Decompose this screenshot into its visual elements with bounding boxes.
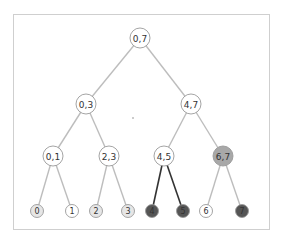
tree-node: 0,3 — [76, 94, 96, 114]
tree-node: 0,7 — [130, 28, 150, 48]
tree-edge — [86, 38, 140, 104]
tree-node: 2,3 — [99, 146, 119, 166]
node-label: 4 — [149, 207, 154, 216]
node-label: 0 — [34, 207, 39, 216]
node-label: 1 — [69, 207, 74, 216]
node-label: 4,7 — [184, 100, 198, 110]
node-label: 2,3 — [102, 152, 116, 162]
tree-node: 4,7 — [181, 94, 201, 114]
node-label: 0,3 — [79, 100, 93, 110]
leaf-node: 4 — [146, 205, 159, 218]
tree-nodes: 0,70,34,70,12,34,56,701234567 — [31, 28, 249, 218]
tree-node: 0,1 — [43, 146, 63, 166]
node-label: 3 — [125, 207, 130, 216]
node-label: 6 — [203, 207, 208, 216]
node-label: 7 — [239, 207, 244, 216]
node-label: 0,1 — [46, 152, 60, 162]
tree-edges — [37, 38, 242, 211]
node-label: 0,7 — [133, 34, 147, 44]
node-label: 2 — [93, 207, 98, 216]
leaf-node: 6 — [200, 205, 213, 218]
center-dot — [132, 117, 134, 119]
node-label: 4,5 — [157, 152, 171, 162]
leaf-node: 1 — [66, 205, 79, 218]
node-label: 5 — [180, 207, 185, 216]
leaf-node: 7 — [236, 205, 249, 218]
tree-node: 6,7 — [213, 146, 233, 166]
tree-node: 4,5 — [154, 146, 174, 166]
segment-tree-diagram: 0,70,34,70,12,34,56,701234567 — [0, 0, 282, 242]
leaf-node: 0 — [31, 205, 44, 218]
node-label: 6,7 — [216, 152, 230, 162]
leaf-node: 3 — [122, 205, 135, 218]
leaf-node: 2 — [90, 205, 103, 218]
tree-edge — [140, 38, 191, 104]
leaf-node: 5 — [177, 205, 190, 218]
